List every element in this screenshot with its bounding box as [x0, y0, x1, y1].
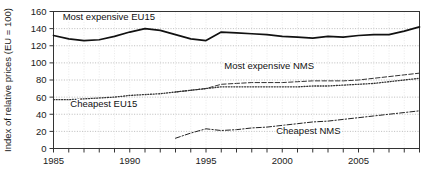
series-label: Cheapest EU15 — [70, 98, 137, 109]
chart-figure: 0204060801001201401601985199019952000200… — [0, 0, 426, 178]
x-tick-label: 2000 — [272, 155, 293, 166]
y-axis-title: Index of relative prices (EU = 100) — [2, 8, 13, 152]
x-tick-label: 1995 — [195, 155, 216, 166]
series-label: Most expensive EU15 — [63, 11, 155, 22]
series-label: Most expensive NMS — [224, 60, 314, 71]
y-tick-label: 140 — [31, 23, 47, 34]
line-chart: 0204060801001201401601985199019952000200… — [0, 0, 426, 178]
series-line — [54, 78, 420, 99]
x-tick-label: 1990 — [119, 155, 140, 166]
x-tick-label: 1985 — [43, 155, 64, 166]
y-tick-label: 160 — [31, 6, 47, 17]
x-tick-label: 2005 — [348, 155, 369, 166]
series-label: Cheapest NMS — [276, 125, 340, 136]
y-tick-label: 100 — [31, 57, 47, 68]
y-tick-label: 0 — [41, 143, 46, 154]
y-tick-label: 120 — [31, 40, 47, 51]
y-tick-label: 60 — [36, 92, 47, 103]
y-tick-label: 80 — [36, 74, 47, 85]
y-tick-label: 40 — [36, 109, 47, 120]
y-tick-label: 20 — [36, 126, 47, 137]
